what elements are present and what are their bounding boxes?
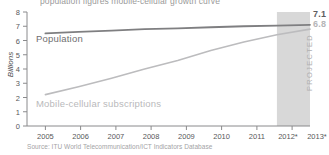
y-tick-label: 7 [16,22,20,31]
y-tick-label: 5 [16,51,20,60]
series-line-population [45,25,310,34]
y-tick-label: 6 [16,37,20,46]
x-tick-label: 2010 [213,132,230,141]
y-axis-ticks [23,12,27,126]
series-label-mobile-cellular-subscriptions: Mobile-cellular subscriptions [36,98,161,109]
end-value-mobile-cellular-subscriptions: 6.8 [313,19,326,29]
chart-plot-area: 8 7 6 5 4 3 2 1 0 2005 2006 2007 2008 20… [0,0,329,155]
series-line-mobile-cellular-subscriptions [45,29,310,95]
y-tick-label: 1 [16,108,20,117]
x-axis-ticks [45,126,292,130]
x-tick-label: 2005 [37,132,54,141]
x-tick-label: 2008 [143,132,160,141]
y-tick-label: 8 [16,8,20,17]
x-tick-label: 2009 [178,132,195,141]
chart-figure: population figures mobile-cellular growt… [0,0,329,155]
x-axis-tick-labels: 2005 2006 2007 2008 2009 2010 2011 2012*… [37,132,327,141]
y-tick-label: 3 [16,79,20,88]
y-tick-label: 4 [16,65,20,74]
end-value-population: 7.1 [313,9,326,19]
x-tick-label: 2012* [278,132,298,141]
y-axis-tick-labels: 8 7 6 5 4 3 2 1 0 [16,8,20,131]
y-axis-title: Billions [6,37,15,93]
x-tick-label: 2011 [249,132,265,141]
x-tick-label: 2013* [307,132,327,141]
y-tick-label: 0 [16,122,20,131]
series-label-population: Population [36,33,83,44]
x-tick-label: 2006 [72,132,89,141]
source-note: Source: ITU World Telecommunication/ICT … [27,143,212,150]
x-tick-label: 2007 [108,132,125,141]
projected-band-label: PROJECTED [305,33,314,93]
y-tick-label: 2 [16,94,20,103]
